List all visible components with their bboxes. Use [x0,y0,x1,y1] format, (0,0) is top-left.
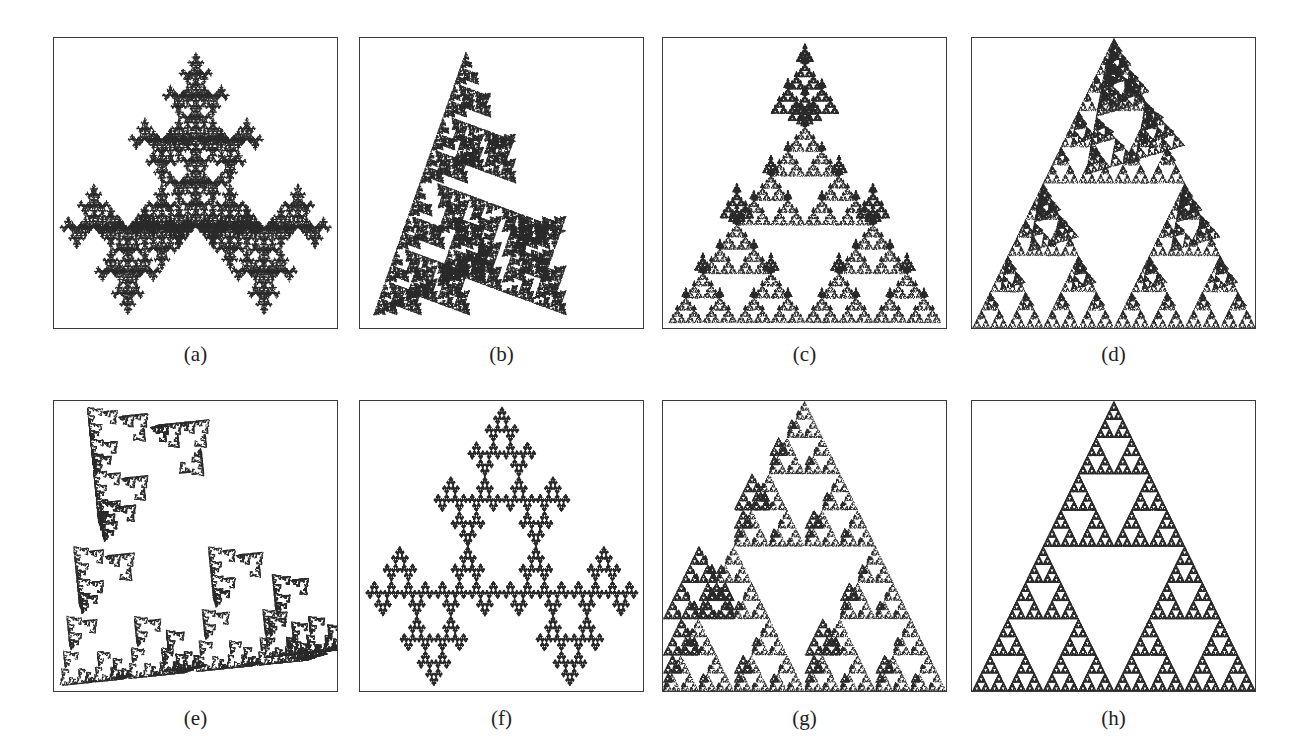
caption-f: (f) [359,706,644,730]
caption-a: (a) [53,342,338,366]
fractal-panel-c [662,37,947,329]
fractal-panel-h [971,400,1256,692]
fractal-panel-f [359,400,644,692]
fractal-image-c [663,38,946,328]
fractal-panel-e [53,400,338,692]
fractal-panel-g [662,400,947,692]
fractal-image-e [54,401,337,691]
fractal-image-g [663,401,946,691]
fractal-image-d [972,38,1255,328]
fractal-image-b [360,38,643,328]
caption-c: (c) [662,342,947,366]
caption-g: (g) [662,706,947,730]
fractal-panel-a [53,37,338,329]
fractal-image-h [972,401,1255,691]
fractal-panel-d [971,37,1256,329]
fractal-panel-b [359,37,644,329]
caption-d: (d) [971,342,1256,366]
caption-h: (h) [971,706,1256,730]
caption-e: (e) [53,706,338,730]
fractal-image-a [54,38,337,328]
fractal-image-f [360,401,643,691]
caption-b: (b) [359,342,644,366]
